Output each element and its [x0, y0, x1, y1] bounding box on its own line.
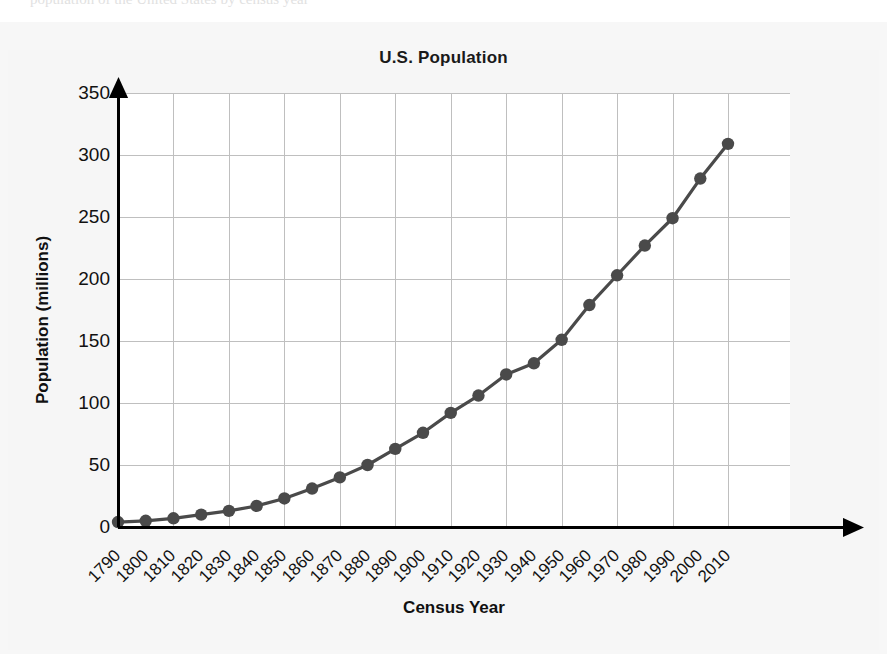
data-point-marker — [417, 427, 429, 439]
y-tick-label: 200 — [62, 268, 110, 290]
y-axis-tick-labels: 050100150200250300350 — [56, 93, 110, 527]
y-tick-label: 300 — [62, 144, 110, 166]
data-point-marker — [445, 407, 457, 419]
y-tick-label: 0 — [62, 516, 110, 538]
data-point-marker — [361, 459, 373, 471]
scan-top-cut-text: population of the United States by censu… — [30, 0, 870, 9]
data-point-marker — [666, 212, 678, 224]
data-point-marker — [195, 508, 207, 520]
data-point-marker — [639, 239, 651, 251]
y-tick-label: 50 — [62, 454, 110, 476]
data-point-marker — [528, 357, 540, 369]
data-point-marker — [500, 368, 512, 380]
x-tick-label: 2010 — [694, 546, 735, 587]
y-tick-label: 350 — [62, 82, 110, 104]
y-tick-label: 250 — [62, 206, 110, 228]
series-line-chart — [118, 93, 790, 527]
data-point-marker — [583, 299, 595, 311]
data-point-marker — [389, 443, 401, 455]
data-point-marker — [250, 500, 262, 512]
data-point-marker — [611, 269, 623, 281]
x-axis-tick-labels: 1790180018101820183018401850186018701880… — [118, 527, 790, 597]
plot-area — [118, 93, 790, 527]
x-axis-title: Census Year — [118, 598, 790, 618]
data-point-marker — [223, 505, 235, 517]
y-axis-title: Population (millions) — [33, 170, 53, 470]
series-line — [118, 144, 728, 522]
data-point-marker — [167, 512, 179, 524]
data-point-marker — [306, 482, 318, 494]
data-point-marker — [278, 492, 290, 504]
data-point-marker — [472, 389, 484, 401]
data-point-marker — [140, 515, 152, 527]
data-point-marker — [694, 172, 706, 184]
data-point-marker — [722, 138, 734, 150]
y-tick-label: 150 — [62, 330, 110, 352]
y-tick-label: 100 — [62, 392, 110, 414]
chart-title: U.S. Population — [0, 48, 887, 68]
data-point-marker — [555, 334, 567, 346]
data-point-marker — [334, 471, 346, 483]
